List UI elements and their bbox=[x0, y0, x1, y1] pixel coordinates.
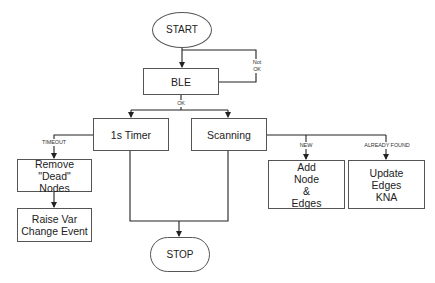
remove-dead-label: Remove "Dead" Nodes bbox=[18, 158, 91, 194]
ble-node: BLE bbox=[143, 68, 219, 95]
raise-var-node: Raise Var Change Event bbox=[17, 208, 92, 242]
stop-label: STOP bbox=[166, 249, 193, 261]
add-node-label: Add Node & Edges bbox=[292, 161, 322, 209]
timer-node: 1s Timer bbox=[93, 118, 169, 151]
scanning-label: Scanning bbox=[207, 129, 251, 141]
new-label: NEW bbox=[299, 142, 313, 149]
start-node: START bbox=[152, 12, 212, 48]
already-found-label: ALREADY FOUND bbox=[364, 142, 410, 149]
timeout-label: TIMEOUT bbox=[40, 139, 68, 146]
not-ok-label: Not OK bbox=[250, 59, 264, 73]
update-edges-node: Update Edges KNA bbox=[348, 160, 425, 209]
add-node-node: Add Node & Edges bbox=[268, 160, 345, 209]
ok-label: OK bbox=[175, 100, 187, 107]
scanning-node: Scanning bbox=[191, 118, 267, 151]
remove-dead-node: Remove "Dead" Nodes bbox=[17, 159, 92, 192]
stop-node: STOP bbox=[150, 237, 210, 272]
ble-label: BLE bbox=[171, 76, 191, 88]
timer-label: 1s Timer bbox=[111, 129, 151, 141]
update-edges-label: Update Edges KNA bbox=[370, 167, 404, 203]
edge-timer-merge bbox=[130, 151, 228, 221]
raise-var-label: Raise Var Change Event bbox=[21, 213, 88, 237]
start-label: START bbox=[166, 24, 198, 36]
